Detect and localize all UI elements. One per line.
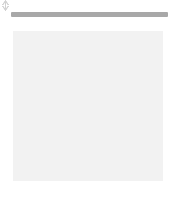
top-rail [11,12,168,17]
checkerboard-grid [13,31,163,181]
figure-canvas [0,0,180,216]
grid-cells [13,31,163,181]
grid-edge-shadow [163,30,166,182]
bottom-marker-3 [0,0,11,11]
